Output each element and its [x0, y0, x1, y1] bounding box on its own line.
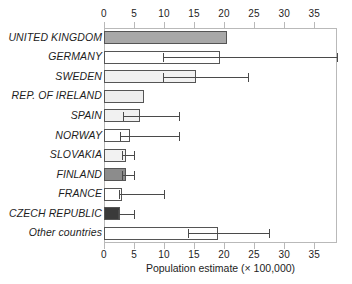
- error-bar-cap: [134, 171, 135, 180]
- tick-mark-top: [224, 22, 225, 28]
- tick-label-bottom: 25: [241, 249, 267, 260]
- x-axis-title: Population estimate (× 100,000): [104, 262, 337, 274]
- error-bar-cap: [123, 112, 124, 121]
- horizontal-bar-chart: 05101520253035 05101520253035 UNITED KIN…: [0, 0, 352, 284]
- error-bar-cap: [119, 190, 120, 199]
- error-bar-line: [122, 175, 134, 176]
- error-bar-cap: [269, 229, 270, 238]
- bar: [104, 31, 227, 44]
- error-bar-line: [123, 116, 179, 117]
- error-bar-line: [119, 194, 164, 195]
- error-bar-line: [163, 57, 337, 58]
- category-label: SLOVAKIA: [0, 148, 102, 160]
- error-bar-cap: [179, 112, 180, 121]
- error-bar-cap: [134, 151, 135, 160]
- tick-label-bottom: 5: [121, 249, 147, 260]
- bar: [104, 90, 144, 103]
- error-bar-cap: [163, 73, 164, 82]
- tick-label-top: 0: [91, 8, 117, 19]
- category-label: Other countries: [0, 226, 102, 238]
- error-bar-cap: [179, 132, 180, 141]
- category-label: SPAIN: [0, 109, 102, 121]
- error-bar-cap: [134, 210, 135, 219]
- tick-mark-top: [134, 22, 135, 28]
- tick-label-bottom: 20: [211, 249, 237, 260]
- tick-label-top: 20: [211, 8, 237, 19]
- tick-label-top: 5: [121, 8, 147, 19]
- tick-mark-top: [284, 22, 285, 28]
- category-label: FRANCE: [0, 187, 102, 199]
- tick-label-top: 35: [301, 8, 327, 19]
- error-bar-cap: [164, 190, 165, 199]
- error-bar-cap: [122, 171, 123, 180]
- tick-mark-top: [164, 22, 165, 28]
- category-label: CZECH REPUBLIC: [0, 207, 102, 219]
- error-bar-line: [188, 233, 269, 234]
- error-bar-cap: [188, 229, 189, 238]
- category-label: FINLAND: [0, 168, 102, 180]
- error-bar-cap: [248, 73, 249, 82]
- error-bar-line: [120, 136, 179, 137]
- tick-label-bottom: 30: [271, 249, 297, 260]
- tick-label-bottom: 15: [181, 249, 207, 260]
- error-bar-cap: [163, 53, 164, 62]
- tick-label-bottom: 10: [151, 249, 177, 260]
- category-label: UNITED KINGDOM: [0, 31, 102, 43]
- tick-mark-top: [314, 22, 315, 28]
- tick-label-top: 25: [241, 8, 267, 19]
- error-bar-cap: [337, 53, 338, 62]
- tick-mark-top: [254, 22, 255, 28]
- tick-label-bottom: 0: [91, 249, 117, 260]
- tick-mark-top: [104, 22, 105, 28]
- category-label: SWEDEN: [0, 70, 102, 82]
- category-label: NORWAY: [0, 129, 102, 141]
- category-label: GERMANY: [0, 50, 102, 62]
- tick-label-top: 10: [151, 8, 177, 19]
- tick-label-top: 15: [181, 8, 207, 19]
- tick-label-top: 30: [271, 8, 297, 19]
- category-label: REP. OF IRELAND: [0, 89, 102, 101]
- error-bar-cap: [118, 210, 119, 219]
- error-bar-line: [118, 214, 134, 215]
- tick-label-bottom: 35: [301, 249, 327, 260]
- error-bar-cap: [120, 132, 121, 141]
- error-bar-line: [163, 77, 248, 78]
- error-bar-cap: [122, 151, 123, 160]
- error-bar-line: [122, 155, 134, 156]
- tick-mark-top: [194, 22, 195, 28]
